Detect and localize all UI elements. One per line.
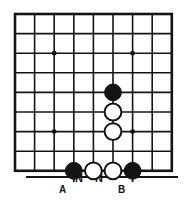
white-stone [85, 162, 102, 179]
star-point [130, 129, 135, 134]
star-point [52, 129, 57, 134]
go-board-canvas: NN [0, 0, 189, 208]
board-grid [15, 14, 172, 171]
black-stone [105, 84, 122, 101]
star-point [52, 51, 57, 56]
go-diagram: NN A B [0, 0, 189, 208]
white-stone [105, 104, 122, 121]
annotation-label-a: A [59, 185, 66, 195]
star-point [130, 51, 135, 56]
annotation-label-b: B [118, 185, 125, 195]
white-stone [105, 162, 122, 179]
white-stone [105, 123, 122, 140]
